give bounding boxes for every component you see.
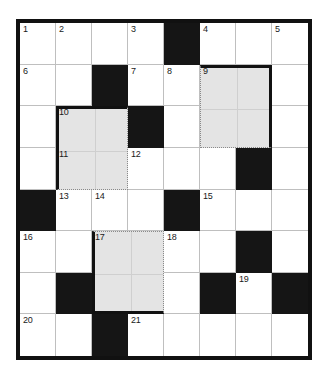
cell-number: 1 bbox=[23, 24, 28, 35]
cell-number: 21 bbox=[131, 315, 141, 326]
grid-cell[interactable] bbox=[56, 314, 92, 356]
grid-block-square bbox=[164, 190, 200, 232]
cell-number: 20 bbox=[23, 315, 33, 326]
grid-cell[interactable] bbox=[200, 231, 236, 273]
grid-block-square bbox=[128, 106, 164, 148]
grid-cell[interactable] bbox=[200, 314, 236, 356]
cell-number: 15 bbox=[203, 191, 213, 202]
grid-cell[interactable] bbox=[272, 231, 308, 273]
grid-cell[interactable]: 13 bbox=[56, 190, 92, 232]
cell-number: 11 bbox=[59, 149, 68, 160]
cell-number: 19 bbox=[239, 274, 249, 285]
grid-cell[interactable] bbox=[56, 65, 92, 107]
grid-cell[interactable] bbox=[164, 148, 200, 190]
grid-cell[interactable]: 5 bbox=[272, 23, 308, 65]
cell-number: 8 bbox=[167, 66, 172, 77]
cell-number: 18 bbox=[167, 232, 177, 243]
grid-cell[interactable]: 4 bbox=[200, 23, 236, 65]
grid-cell[interactable] bbox=[236, 23, 272, 65]
crossword-grid-frame: 123456781213141516181920219101117 bbox=[16, 19, 312, 360]
shaded-region-divider bbox=[237, 68, 238, 147]
grid-cell[interactable]: 12 bbox=[128, 148, 164, 190]
shaded-region-divider bbox=[131, 232, 132, 311]
grid-cell[interactable]: 2 bbox=[56, 23, 92, 65]
grid-cell[interactable] bbox=[200, 148, 236, 190]
grid-cell[interactable] bbox=[272, 65, 308, 107]
shaded-region-divider bbox=[59, 151, 127, 152]
cell-number: 9 bbox=[203, 66, 208, 77]
grid-cell[interactable]: 18 bbox=[164, 231, 200, 273]
grid-cell[interactable] bbox=[20, 273, 56, 315]
grid-block-square bbox=[92, 65, 128, 107]
cell-number: 17 bbox=[95, 232, 105, 243]
cell-number: 13 bbox=[59, 191, 69, 202]
grid-block-square bbox=[20, 190, 56, 232]
grid-cell[interactable]: 19 bbox=[236, 273, 272, 315]
grid-cell[interactable]: 14 bbox=[92, 190, 128, 232]
grid-cell[interactable] bbox=[164, 314, 200, 356]
grid-cell[interactable]: 8 bbox=[164, 65, 200, 107]
grid-block-square bbox=[164, 23, 200, 65]
cell-number: 4 bbox=[203, 24, 208, 35]
cell-number: 16 bbox=[23, 232, 33, 243]
grid-cell[interactable] bbox=[164, 106, 200, 148]
grid-cell[interactable] bbox=[272, 190, 308, 232]
grid-cell[interactable]: 21 bbox=[128, 314, 164, 356]
grid-cell[interactable] bbox=[272, 314, 308, 356]
grid-cell[interactable] bbox=[20, 106, 56, 148]
grid-cell[interactable]: 7 bbox=[128, 65, 164, 107]
grid-block-square bbox=[92, 314, 128, 356]
cell-number: 10 bbox=[59, 107, 69, 118]
grid-cell[interactable] bbox=[128, 190, 164, 232]
grid-block-square bbox=[56, 273, 92, 315]
shaded-region[interactable] bbox=[200, 65, 272, 148]
grid-block-square bbox=[272, 273, 308, 315]
cell-number: 7 bbox=[131, 66, 136, 77]
shaded-region[interactable] bbox=[56, 106, 128, 189]
grid-cell[interactable] bbox=[236, 190, 272, 232]
cell-number: 3 bbox=[131, 24, 136, 35]
grid-cell[interactable] bbox=[20, 148, 56, 190]
grid-cell[interactable] bbox=[272, 148, 308, 190]
grid-block-square bbox=[200, 273, 236, 315]
grid-cell[interactable] bbox=[56, 231, 92, 273]
grid-block-square bbox=[236, 231, 272, 273]
cell-number: 5 bbox=[275, 24, 280, 35]
grid-cell[interactable]: 20 bbox=[20, 314, 56, 356]
crossword-grid: 123456781213141516181920219101117 bbox=[20, 23, 308, 356]
grid-cell[interactable]: 1 bbox=[20, 23, 56, 65]
grid-cell[interactable]: 6 bbox=[20, 65, 56, 107]
cell-number: 14 bbox=[95, 191, 105, 202]
cell-number: 2 bbox=[59, 24, 64, 35]
grid-cell[interactable]: 3 bbox=[128, 23, 164, 65]
shaded-region[interactable] bbox=[92, 231, 164, 314]
grid-cell[interactable] bbox=[164, 273, 200, 315]
grid-block-square bbox=[236, 148, 272, 190]
grid-cell[interactable] bbox=[236, 314, 272, 356]
cell-number: 12 bbox=[131, 149, 141, 160]
crossword-puzzle: 123456781213141516181920219101117 bbox=[0, 0, 331, 382]
shaded-region-divider bbox=[201, 109, 269, 110]
grid-cell[interactable] bbox=[272, 106, 308, 148]
cell-number: 6 bbox=[23, 66, 28, 77]
shaded-region-divider bbox=[95, 274, 163, 275]
shaded-region-divider bbox=[95, 109, 96, 188]
grid-cell[interactable] bbox=[92, 23, 128, 65]
grid-cell[interactable]: 15 bbox=[200, 190, 236, 232]
grid-cell[interactable]: 16 bbox=[20, 231, 56, 273]
